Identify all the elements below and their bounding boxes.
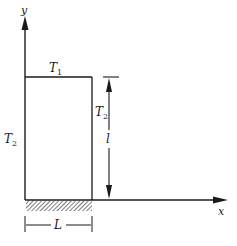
y-axis-arrow-icon	[22, 16, 29, 30]
plate	[25, 77, 92, 200]
heat-conduction-diagram: y x T1 T2 T2 l L	[0, 0, 237, 246]
left-edge-label: T2	[4, 132, 17, 148]
x-axis-label: x	[218, 205, 225, 218]
top-edge-label: T1	[49, 61, 62, 77]
dimension-arrow-up-icon	[106, 78, 112, 92]
height-label: l	[106, 132, 110, 146]
dimension-arrow-down-icon	[106, 185, 112, 199]
right-edge-label: T2	[95, 105, 108, 121]
y-axis-label: y	[20, 4, 28, 17]
hatched-base	[26, 201, 92, 211]
width-label: L	[53, 218, 62, 232]
y-axis	[22, 16, 29, 200]
x-axis-arrow-icon	[213, 197, 228, 204]
